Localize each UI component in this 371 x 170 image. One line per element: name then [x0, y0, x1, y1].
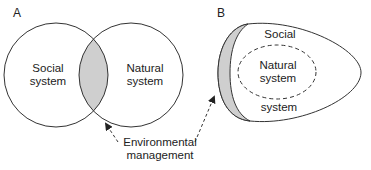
egg-social-label: Social: [255, 28, 305, 41]
panel-b-letter: B: [217, 6, 225, 20]
natural-system-label: Natural system: [118, 62, 172, 88]
panel-a-letter: A: [13, 6, 21, 20]
social-system-label: Social system: [28, 62, 68, 88]
egg-system-label: system: [254, 101, 304, 114]
inner-label-line2: system: [252, 72, 304, 85]
environmental-management-crescent: [218, 24, 250, 121]
egg-natural-system-label: Natural system: [252, 59, 304, 85]
environmental-management-label: Environmental management: [118, 136, 202, 162]
arrow-to-overlap: [106, 124, 118, 142]
social-label-line1: Social: [28, 62, 68, 75]
social-label-line2: system: [28, 75, 68, 88]
natural-label-line2: system: [118, 75, 172, 88]
inner-label-line1: Natural: [252, 59, 304, 72]
callout-line2: management: [118, 149, 202, 162]
callout-line1: Environmental: [118, 136, 202, 149]
natural-label-line1: Natural: [118, 62, 172, 75]
